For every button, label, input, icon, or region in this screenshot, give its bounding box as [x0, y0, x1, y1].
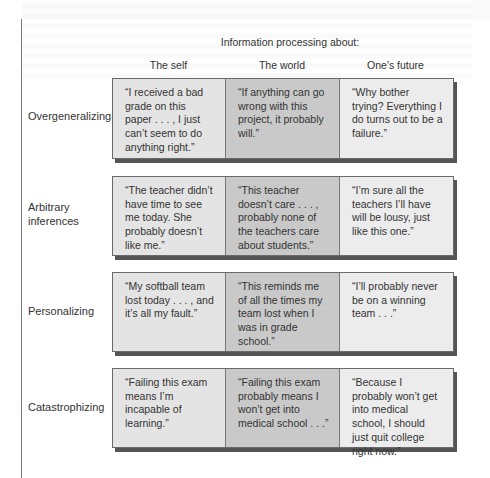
row-catastrophizing: “Failing this exam means I’m incapable o…	[112, 368, 454, 448]
row-label-catastrophizing: Catastrophizing	[28, 400, 108, 414]
cell-future: “I’ll probably never be on a winning tea…	[340, 273, 453, 351]
diagram-title: Information processing about:	[180, 36, 400, 48]
cell-future: “Because I probably won’t get into medic…	[340, 369, 453, 447]
cell-world: “Failing this exam probably means I won’…	[226, 369, 340, 447]
column-header-future: One's future	[339, 59, 452, 71]
row-personalizing: “My softball team lost today . . . , and…	[112, 272, 454, 352]
cell-world: “This teacher doesn’t care . . . , proba…	[226, 177, 340, 255]
cell-future: “I’m sure all the teachers I’ll have wil…	[340, 177, 453, 255]
row-label-personalizing: Personalizing	[28, 304, 108, 318]
row-label-overgeneralizing: Overgeneralizing	[28, 109, 108, 123]
cell-future: “Why bother trying? Everything I do turn…	[340, 79, 453, 158]
cell-self: “Failing this exam means I’m incapable o…	[113, 369, 226, 447]
margin-rule	[21, 19, 22, 478]
cell-self: “My softball team lost today . . . , and…	[113, 273, 226, 351]
row-arbitrary-inferences: “The teacher didn’t have time to see me …	[112, 176, 454, 256]
cell-self: “I received a bad grade on this paper . …	[113, 79, 226, 158]
row-label-arbitrary-inferences: Arbitrary inferences	[28, 200, 108, 228]
cell-world: “This reminds me of all the times my tea…	[226, 273, 340, 351]
cell-self: “The teacher didn’t have time to see me …	[113, 177, 226, 255]
cell-world: “If anything can go wrong with this proj…	[226, 79, 340, 158]
row-overgeneralizing: “I received a bad grade on this paper . …	[112, 78, 454, 159]
column-header-world: The world	[225, 59, 339, 71]
column-header-self: The self	[112, 59, 225, 71]
